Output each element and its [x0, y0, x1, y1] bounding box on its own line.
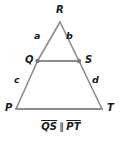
figure-caption: QS∥PT: [0, 121, 122, 133]
vertex-label-s: S: [85, 55, 92, 65]
vertex-label-p: P: [5, 103, 12, 113]
side-label-a: a: [34, 31, 40, 41]
side-label-b: b: [66, 31, 73, 41]
geometry-figure: R Q S P T a b c d QS∥PT: [0, 0, 122, 144]
segment-st: [79, 61, 102, 109]
segment-rq: [38, 22, 61, 61]
side-label-c: c: [14, 75, 20, 85]
vertex-label-q: Q: [25, 55, 34, 65]
segment-qp: [16, 61, 38, 109]
segment-rs: [60, 22, 79, 61]
side-label-d: d: [92, 75, 99, 85]
caption-segment-pt: PT: [66, 121, 81, 132]
caption-segment-qs: QS: [41, 121, 57, 132]
vertex-label-r: R: [56, 5, 64, 15]
vertex-dot-s: [77, 59, 81, 63]
vertex-dot-q: [35, 59, 39, 63]
caption-parallel-symbol: ∥: [57, 121, 66, 132]
vertex-label-t: T: [107, 103, 114, 113]
